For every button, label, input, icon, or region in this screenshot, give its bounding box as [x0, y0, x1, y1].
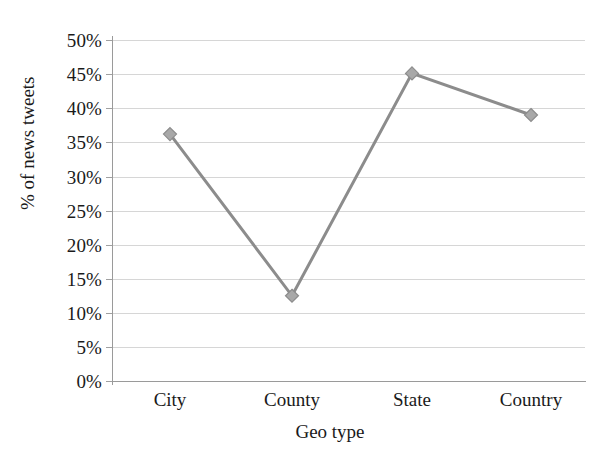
data-series-layer: [0, 0, 610, 467]
series-line: [170, 73, 531, 295]
data-point-marker: [406, 67, 419, 80]
data-point-marker: [525, 109, 538, 122]
line-chart-figure: 50% 45% 40% 35% 30% 25% 20% 15% 10% 5% 0…: [0, 0, 610, 467]
